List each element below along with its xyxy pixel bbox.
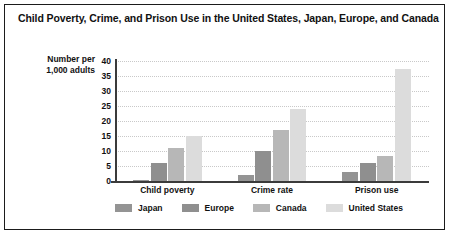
chart-legend: JapanEuropeCanadaUnited States bbox=[115, 203, 435, 213]
y-axis-tick-label: 10 bbox=[89, 146, 111, 156]
legend-label: Canada bbox=[276, 203, 307, 213]
x-axis-category-labels: Child povertyCrime ratePrison use bbox=[115, 185, 429, 195]
legend-swatch bbox=[115, 204, 132, 212]
legend-label: United States bbox=[349, 203, 403, 213]
bar bbox=[186, 136, 202, 181]
bar bbox=[151, 163, 167, 181]
legend-swatch bbox=[326, 204, 343, 212]
bar-group bbox=[220, 61, 325, 181]
y-axis-tick-label: 15 bbox=[89, 131, 111, 141]
bar bbox=[273, 130, 289, 181]
chart-title: Child Poverty, Crime, and Prison Use in … bbox=[18, 12, 433, 24]
legend-swatch bbox=[182, 204, 199, 212]
bar bbox=[238, 175, 254, 181]
y-axis-tick-label: 20 bbox=[89, 116, 111, 126]
y-axis-tick-label: 35 bbox=[89, 71, 111, 81]
legend-item[interactable]: Europe bbox=[182, 203, 234, 213]
bar bbox=[290, 109, 306, 181]
y-axis-tick-label: 40 bbox=[89, 56, 111, 66]
bar bbox=[395, 69, 411, 182]
chart-figure: Child Poverty, Crime, and Prison Use in … bbox=[4, 4, 445, 230]
bar bbox=[360, 163, 376, 181]
bar bbox=[168, 148, 184, 181]
bar bbox=[342, 172, 358, 181]
x-axis-category-label: Crime rate bbox=[220, 185, 325, 195]
y-axis-tick-label: 25 bbox=[89, 101, 111, 111]
y-axis-tick-label: 5 bbox=[89, 161, 111, 171]
plot-area bbox=[115, 61, 429, 181]
x-axis-category-label: Prison use bbox=[324, 185, 429, 195]
legend-swatch bbox=[253, 204, 270, 212]
x-axis-line bbox=[111, 181, 429, 183]
legend-item[interactable]: United States bbox=[326, 203, 403, 213]
y-axis-title: Number per 1,000 adults bbox=[21, 54, 95, 76]
legend-item[interactable]: Canada bbox=[253, 203, 307, 213]
y-axis-title-line-1: Number per bbox=[21, 54, 95, 65]
bar bbox=[133, 180, 149, 182]
bar bbox=[377, 156, 393, 182]
bar-groups bbox=[115, 61, 429, 181]
legend-item[interactable]: Japan bbox=[115, 203, 163, 213]
y-axis-title-line-2: 1,000 adults bbox=[21, 65, 95, 76]
y-axis-tick-labels: 4035302520151050 bbox=[87, 61, 111, 181]
legend-label: Japan bbox=[138, 203, 163, 213]
bar-group bbox=[324, 61, 429, 181]
y-axis-tick-label: 30 bbox=[89, 86, 111, 96]
y-axis-tick-label: 0 bbox=[89, 176, 111, 186]
bar bbox=[255, 151, 271, 181]
legend-label: Europe bbox=[205, 203, 234, 213]
x-axis-category-label: Child poverty bbox=[115, 185, 220, 195]
bar-group bbox=[115, 61, 220, 181]
